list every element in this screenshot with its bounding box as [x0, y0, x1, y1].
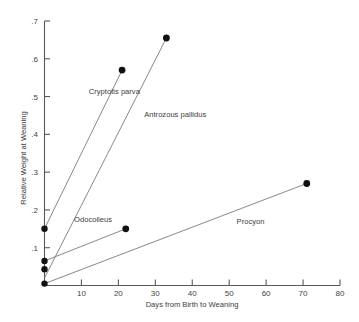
origin-point-marker [41, 266, 47, 272]
series-labels-group: Cryptotis parvaAntrozous pallidusOdocoil… [74, 87, 264, 226]
y-tick-label: .6 [31, 55, 38, 64]
y-tick-label: .3 [31, 168, 38, 177]
y-tick-label: .4 [31, 130, 38, 139]
y-tick-label: .7 [31, 17, 38, 26]
series-lines-group [45, 38, 307, 284]
chart-figure: .1.2.3.4.5.6.7 Relative Weight at Weanin… [0, 0, 359, 322]
data-point-marker [119, 67, 126, 74]
y-tick-label: .2 [31, 206, 38, 215]
y-tick-label: .1 [31, 244, 38, 253]
x-tick-label: 50 [225, 289, 234, 298]
origin-point-marker [41, 280, 47, 286]
x-tick-label: 70 [299, 289, 308, 298]
origin-point-marker [41, 258, 47, 264]
x-tick-label: 30 [151, 289, 160, 298]
data-point-marker [122, 225, 129, 232]
y-axis-ticks [45, 21, 51, 248]
x-tick-label: 60 [262, 289, 271, 298]
x-tick-label: 40 [188, 289, 197, 298]
y-tick-label: .5 [31, 93, 38, 102]
x-axis: 1020304050607080 Days from Birth to Wean… [44, 280, 345, 310]
series-label: Cryptotis parva [89, 87, 141, 96]
x-axis-ticks [81, 280, 340, 286]
y-axis-tick-labels: .1.2.3.4.5.6.7 [31, 17, 38, 253]
y-axis: .1.2.3.4.5.6.7 Relative Weight at Weanin… [19, 17, 50, 285]
x-tick-label: 80 [336, 289, 345, 298]
y-axis-title: Relative Weight at Weaning [19, 111, 28, 204]
series-label: Antrozous pallidus [144, 110, 206, 119]
series-markers-group [119, 35, 310, 233]
data-point-marker [163, 35, 170, 42]
chart-canvas: .1.2.3.4.5.6.7 Relative Weight at Weanin… [0, 0, 359, 322]
series-line [45, 183, 307, 283]
x-axis-tick-labels: 1020304050607080 [77, 289, 345, 298]
series-line [45, 229, 126, 261]
series-label: Odocoileus [74, 215, 112, 224]
x-tick-label: 20 [114, 289, 123, 298]
series-label: Procyon [237, 217, 265, 226]
x-tick-label: 10 [77, 289, 86, 298]
data-point-marker [303, 180, 310, 187]
series-line [45, 38, 167, 278]
x-axis-title: Days from Birth to Weaning [146, 300, 239, 309]
origin-point-marker [41, 226, 47, 232]
